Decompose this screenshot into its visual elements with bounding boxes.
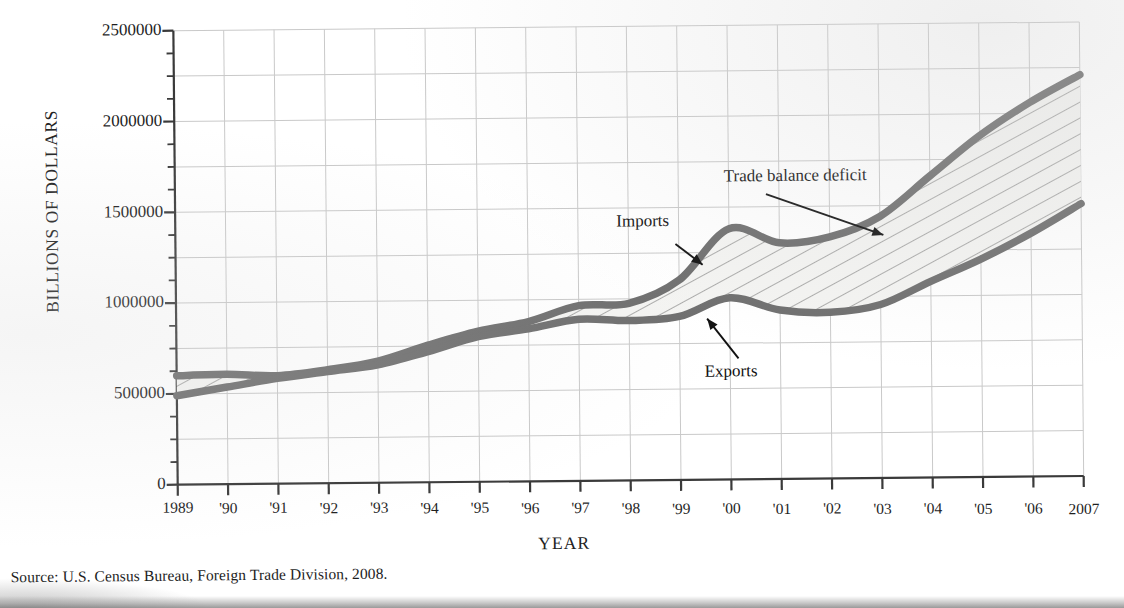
y-tick-label: 1500000 [9,201,163,222]
annotation-exports: Exports [705,361,758,382]
y-tick-label: 2500000 [7,20,161,41]
x-tick-label: '92 [309,499,349,517]
x-tick-label: '00 [712,499,752,517]
y-tick-label: 0 [12,474,166,495]
x-tick-label: '01 [762,499,802,517]
x-tick-label: 1989 [150,498,206,517]
x-tick-label: '02 [812,499,852,517]
x-tick-label: '98 [611,499,651,517]
x-tick-label: '91 [259,499,299,517]
x-tick-label: '94 [410,499,450,517]
x-tick-label: '90 [208,499,248,517]
x-tick-label: '97 [561,499,601,517]
annotation-imports: Imports [616,211,669,232]
scan-bottom-edge [0,596,1124,608]
x-tick-label: '05 [963,500,1003,518]
y-tick-label: 1000000 [10,292,164,313]
x-tick-label: '99 [661,499,701,517]
annotation-trade-balance-deficit: Trade balance deficit [724,165,867,186]
x-tick-label: '93 [359,499,399,517]
x-tick-label: 2007 [1056,500,1112,519]
scanned-page-layer: 05000001000000150000020000002500000 1989… [0,0,1124,608]
x-tick-label: '95 [460,499,500,517]
x-tick-label: '03 [863,499,903,517]
y-axis-title: BILLIONS OF DOLLARS [40,96,63,326]
y-tick-label: 2000000 [8,111,162,132]
figure-root: 05000001000000150000020000002500000 1989… [0,0,1124,608]
x-tick-label: '04 [913,500,953,518]
x-tick-label: '96 [510,499,550,517]
x-tick-label: '06 [1014,500,1054,518]
y-tick-label: 500000 [11,383,165,404]
